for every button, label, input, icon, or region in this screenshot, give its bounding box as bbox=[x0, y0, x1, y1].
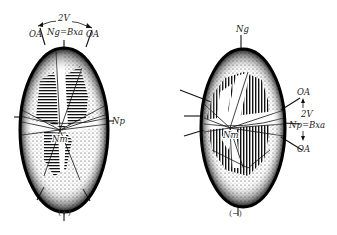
label-np: Np bbox=[111, 116, 125, 126]
label-ng-bxa: Ng=Bxa bbox=[46, 27, 83, 37]
label-oa-left: OA bbox=[29, 29, 42, 39]
sign-label-positive: (+) bbox=[58, 208, 71, 217]
label-nm: Nm bbox=[51, 134, 68, 144]
sign-label-negative: (−) bbox=[229, 209, 242, 218]
label-oa-bottom: OA bbox=[297, 144, 310, 154]
label-nm: Nm bbox=[222, 130, 239, 140]
label-np-bxa: Np=Bxa bbox=[288, 120, 325, 130]
label-oa-right: OA bbox=[86, 29, 99, 39]
diagram-canvas: 2V OA Ng=Bxa OA Np Nm (+) bbox=[0, 0, 337, 235]
arrow-up-icon bbox=[301, 98, 305, 103]
indicatrix-negative: Ng OA 2V Np=Bxa OA Nm (−) bbox=[180, 24, 325, 218]
arrow-down-icon bbox=[301, 136, 305, 141]
arrow-left-icon bbox=[38, 22, 43, 27]
label-2v: 2V bbox=[57, 13, 70, 23]
label-oa-top: OA bbox=[297, 87, 310, 97]
indicatrix-positive: 2V OA Ng=Bxa OA Np Nm (+) bbox=[14, 13, 125, 221]
label-2v: 2V bbox=[300, 109, 313, 119]
arrow-right-icon bbox=[86, 23, 92, 28]
label-ng: Ng bbox=[235, 24, 249, 34]
